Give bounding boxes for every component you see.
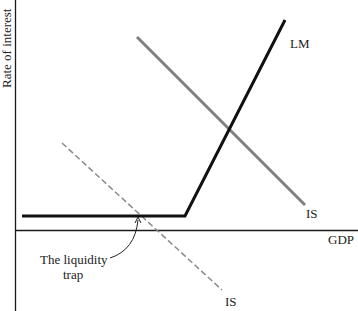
x-axis-label: GDP: [328, 232, 354, 247]
annotation-liquidity-trap-line2: trap: [63, 267, 83, 282]
lm-curve-label: LM: [290, 36, 310, 51]
is-curve: [137, 37, 305, 205]
annotation-arrow: [110, 220, 138, 258]
annotation-liquidity-trap-line1: The liquidity: [40, 252, 108, 267]
y-axis-label: Rate of interest: [0, 8, 14, 88]
islm-chart: Rate of interest GDP IS IS LM The liquid…: [0, 0, 358, 311]
is-curve-label: IS: [306, 206, 318, 221]
is-shifted-curve-label: IS: [225, 294, 237, 309]
lm-curve: [22, 20, 285, 216]
